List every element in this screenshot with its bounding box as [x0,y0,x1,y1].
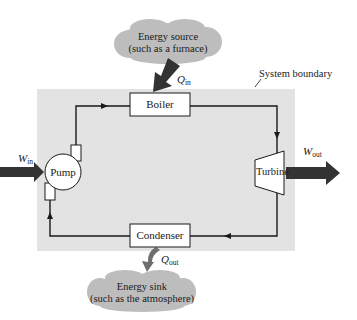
system-boundary-leader [255,79,261,87]
energy-source-label: Energy source (such as a furnace) [118,31,218,55]
w-in-label: Win [18,152,33,168]
energy-sink-line1: Energy sink [88,281,196,293]
energy-source-line2: (such as a furnace) [118,43,218,55]
energy-sink-line2: (such as the atmosphere) [88,293,196,305]
energy-source-line1: Energy source [118,31,218,43]
system-boundary-label: System boundary [259,68,332,80]
q-in-label: Qin [177,73,191,89]
boiler-label: Boiler [130,98,190,110]
energy-sink-label: Energy sink (such as the atmosphere) [88,281,196,305]
pump-label: Pump [45,166,81,178]
q-out-label: Qout [161,253,179,269]
turbine-label: Turbine [256,166,286,178]
condenser-label: Condenser [130,229,190,241]
w-out-label: Wout [303,145,322,161]
